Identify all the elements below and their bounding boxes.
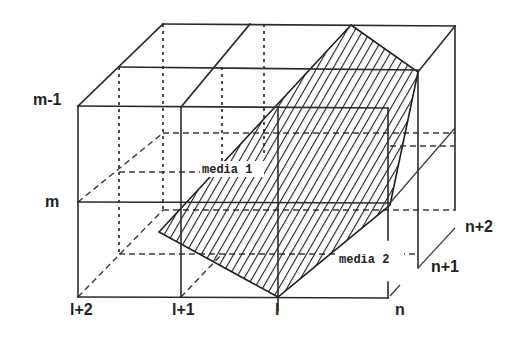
grid-diagram: media 1 media 2 m-1 m l+2 l+1 l n n+1 n+…	[0, 0, 526, 342]
top-left-diagonal	[78, 24, 163, 106]
depth-label-n2: n+2	[465, 218, 493, 235]
row-label-m-1: m-1	[33, 91, 62, 108]
media-1-label: media 1	[202, 163, 252, 177]
row-label-m: m	[45, 193, 59, 210]
depth-label-n: n	[395, 301, 405, 318]
depth-label-n1: n+1	[431, 258, 459, 275]
column-label-l1: l+1	[172, 301, 195, 318]
depth-diagonal-m	[78, 133, 163, 202]
front-m-line	[78, 202, 390, 203]
media-2-label: media 2	[339, 253, 389, 267]
column-label-l2: l+2	[70, 301, 93, 318]
front-right-depth-stub	[390, 285, 400, 296]
top-mid-diagonal	[181, 24, 250, 107]
front-bottom-edge	[78, 297, 388, 298]
top-right-diagonal	[418, 26, 455, 72]
top-back-edge	[163, 24, 455, 26]
column-label-l: l	[275, 301, 279, 318]
